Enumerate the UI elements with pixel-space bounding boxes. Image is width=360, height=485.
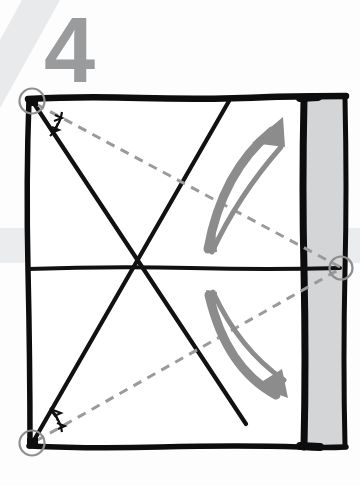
flap-fold-edge [303, 99, 305, 447]
origami-figure: 4 [0, 0, 360, 485]
right-flap-panel [303, 97, 346, 447]
flap-corner-bottom [300, 446, 320, 447]
step-number: 4 [44, 0, 95, 101]
crease-horizontal-midline [28, 267, 340, 269]
flap-corner-top [300, 97, 318, 98]
square-sheet-fill [30, 97, 306, 447]
sheet-edge-left [27, 99, 30, 446]
origami-diagram-page: 4 [0, 0, 360, 485]
flap-outer-edge [344, 98, 346, 446]
